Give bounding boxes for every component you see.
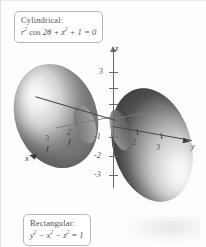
y-axis-arrow-icon: [183, 137, 191, 144]
z-tick-label-neg-1: -1: [94, 132, 101, 141]
y-axis-label: y: [191, 141, 195, 151]
figure-panel: z 3 -1 -2 -3 3 2 x 2 3 y Cylindrical: r2…: [0, 0, 206, 247]
z-tick-label-3: 3: [99, 67, 103, 76]
x-tick-label-2: 2: [67, 128, 71, 137]
z-tick-label-neg-3: -3: [94, 170, 101, 179]
rectangular-label: Rectangular:: [30, 218, 84, 229]
callout-rectangular: Rectangular: y2 − x2 − z2 = 1: [23, 214, 91, 246]
z-tick-neg-2: [109, 156, 118, 157]
z-tick-2: [109, 88, 118, 89]
z-tick-3: [109, 72, 118, 73]
hyperboloid-sheet-left: [1, 53, 112, 179]
z-tick-1: [109, 104, 118, 105]
z-axis-label: z: [115, 43, 118, 53]
x-tick-label-3: 3: [45, 134, 49, 143]
y-tick-label-2: 2: [132, 138, 136, 147]
z-tick-neg-3: [109, 175, 118, 176]
x-axis-arrow-icon: [28, 152, 36, 160]
cylindrical-label: Cylindrical:: [21, 15, 96, 26]
z-tick-label-neg-2: -2: [94, 151, 101, 160]
rectangular-equation: y2 − x2 − z2 = 1: [30, 230, 84, 241]
hyperboloid-sheet-right: [99, 78, 206, 211]
z-tick-neg-1: [109, 137, 118, 138]
callout-cylindrical: Cylindrical: r2 cos 2θ + z2 + 1 = 0: [14, 11, 103, 43]
cylindrical-equation: r2 cos 2θ + z2 + 1 = 0: [21, 27, 96, 38]
y-tick-label-3: 3: [156, 143, 160, 152]
x-axis-label: x: [25, 153, 29, 163]
